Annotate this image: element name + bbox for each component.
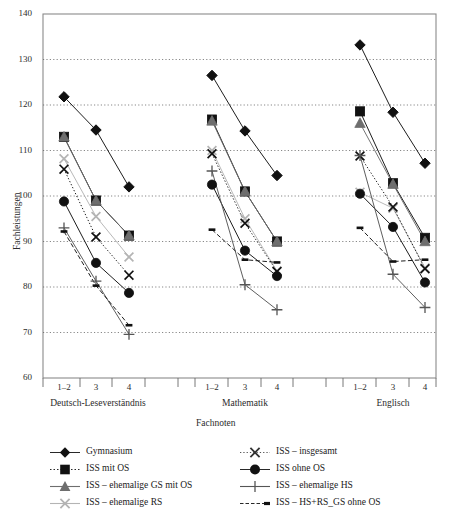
legend-label: ISS – ehemalige GS mit OS [86,480,192,490]
legend-marker-icon [238,480,272,492]
data-point-dash [390,260,397,263]
y-tick-label: 120 [6,99,32,109]
y-tick-label: 140 [6,8,32,18]
legend-symbol-x-dotted [238,446,272,459]
x-tick-label: 4 [409,382,441,392]
data-point-x [125,253,134,262]
data-point-x [389,204,398,213]
x-tick-label: 3 [377,382,409,392]
data-point-dash [61,230,68,233]
x-tick-label: 1–2 [196,382,228,392]
series-line [360,156,425,269]
data-point-x [60,154,69,163]
data-point-circle [240,246,249,255]
series-line [360,111,425,237]
legend-label: ISS mit OS [86,463,129,473]
x-tick-label: 3 [80,382,112,392]
x-tick-label: 1–2 [344,382,376,392]
data-point-dash [93,284,100,287]
y-tick-label: 80 [6,281,32,291]
x-group-label: Englisch [313,398,449,408]
data-point-plus [207,166,218,177]
data-point-x [60,165,69,174]
series-line [212,185,277,276]
data-point-x [241,214,250,223]
data-point-dash [242,258,249,261]
series-line [360,228,425,262]
series-line [64,97,129,187]
x-tick-label: 4 [113,382,145,392]
legend-marker-icon [238,446,272,458]
data-point-diamond [388,107,398,117]
legend-label: Gymnasium [86,446,132,456]
legend-label: ISS – ehemalige RS [86,497,162,507]
data-point-x [125,271,134,280]
y-tick-label: 100 [6,190,32,200]
data-point-circle [420,278,429,287]
y-tick-label: 110 [6,145,32,155]
data-point-x [92,233,101,242]
y-tick-label: 90 [6,236,32,246]
data-point-plus [240,279,251,290]
legend-marker-icon [48,463,82,475]
data-point-plus [124,329,135,340]
legend-label: ISS – ehemalige HS [276,480,353,490]
legend-symbol-circle [238,463,272,476]
legend-marker-icon [48,480,82,492]
legend-symbol-x-gray [48,497,82,509]
legend-marker-icon [48,446,82,458]
x-group-label: Deutsch-Leseverständnis [18,398,178,408]
y-tick-label: 130 [6,54,32,64]
legend-marker-icon [238,463,272,475]
data-point-diamond [272,170,282,180]
x-axis-title: Fachnoten [196,418,236,428]
data-point-x [421,264,430,273]
data-point-x [92,212,101,221]
data-point-dash [209,228,216,231]
data-point-dash [274,261,281,264]
legend-symbol-square [48,463,82,476]
x-tick-label: 1–2 [48,382,80,392]
data-point-circle [355,189,364,198]
data-point-circle [59,197,68,206]
x-tick-label: 4 [261,382,293,392]
data-point-dash [422,258,429,261]
x-group-label: Mathematik [165,398,325,408]
x-tick-label: 3 [229,382,261,392]
data-point-circle [207,180,216,189]
y-tick-label: 60 [6,372,32,382]
chart-figure: Fachleistungen 14013012011010090807060 1… [0,0,449,509]
legend-label: ISS – insgesamt [276,446,337,456]
data-point-dash [126,324,133,327]
series-line [360,45,425,163]
legend-symbol-dash-dashed [238,497,272,509]
data-point-diamond [124,182,134,192]
data-point-square [355,107,364,116]
data-point-diamond [420,158,430,168]
data-point-circle [91,258,100,267]
legend-marker-icon [238,497,272,509]
data-point-circle [124,288,133,297]
legend-label: ISS – HS+RS_GS ohne OS [276,497,381,507]
legend-marker-icon [48,497,82,509]
y-tick-label: 70 [6,327,32,337]
data-point-diamond [240,126,250,136]
legend-label: ISS ohne OS [276,463,325,473]
line-chart-plot [0,0,449,440]
data-point-diamond [207,70,217,80]
chart-legend: GymnasiumISS mit OSISS – ehemalige GS mi… [0,438,449,509]
data-point-diamond [355,40,365,50]
legend-symbol-diamond [48,446,82,459]
data-point-dash [357,227,364,230]
data-point-circle [272,271,281,280]
legend-symbol-triangle [48,480,82,493]
series-line [212,75,277,175]
legend-symbol-plus [238,480,272,493]
series-line [64,159,129,257]
data-point-plus [272,304,283,315]
data-point-circle [388,222,397,231]
